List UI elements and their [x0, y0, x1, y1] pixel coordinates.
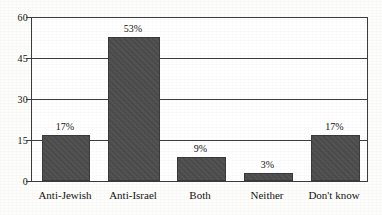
bar-both[interactable] [177, 157, 226, 181]
gridline-30 [32, 99, 367, 100]
bar-dont-know[interactable] [311, 135, 360, 181]
y-tick-label-30: 30 [4, 95, 28, 105]
y-tick-label-60: 60 [4, 13, 28, 23]
gridline-45 [32, 58, 367, 59]
bar-value-both: 9% [176, 144, 225, 154]
bar-texture [43, 136, 89, 180]
x-tick-label-dont-know: Don't know [292, 190, 376, 201]
bar-anti-jewish[interactable] [42, 135, 90, 181]
bar-texture [178, 158, 225, 180]
bar-texture [312, 136, 359, 180]
y-tick-label-15: 15 [4, 136, 28, 146]
bar-value-dont-know: 17% [310, 122, 359, 132]
bar-texture [245, 174, 292, 180]
bar-neither[interactable] [244, 173, 293, 181]
y-tick-label-45: 45 [4, 54, 28, 64]
bar-texture [109, 38, 159, 180]
y-tick-label-0: 0 [4, 177, 28, 187]
bar-chart-figure: 60 45 30 15 0 17% [0, 0, 382, 215]
bar-value-anti-israel: 53% [107, 24, 159, 34]
bar-value-anti-jewish: 17% [41, 122, 89, 132]
bar-value-neither: 3% [243, 160, 292, 170]
plot-area [31, 17, 368, 182]
bar-anti-israel[interactable] [108, 37, 160, 181]
